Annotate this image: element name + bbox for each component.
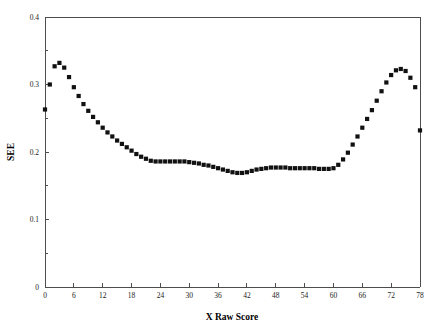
data-point: [303, 166, 307, 170]
data-point: [235, 171, 239, 175]
data-point: [346, 151, 350, 155]
data-point: [254, 167, 258, 171]
data-point: [226, 169, 230, 173]
x-tick-label: 0: [43, 291, 47, 300]
data-point: [322, 167, 326, 171]
data-point: [187, 160, 191, 164]
data-point: [394, 68, 398, 72]
data-point: [105, 130, 109, 134]
data-point: [250, 169, 254, 173]
data-point: [62, 66, 66, 70]
data-point: [48, 82, 52, 86]
data-point: [278, 165, 282, 169]
data-point: [355, 134, 359, 138]
data-point: [91, 115, 95, 119]
data-point: [43, 107, 47, 111]
x-axis-title: X Raw Score: [206, 312, 259, 322]
data-point: [192, 161, 196, 165]
data-point: [230, 170, 234, 174]
data-point: [149, 159, 153, 163]
data-point: [327, 167, 331, 171]
data-point: [288, 166, 292, 170]
data-point: [379, 89, 383, 93]
see-vs-raw-score-scatter-plot: 06121824303642485460667278 00.10.20.30.4…: [0, 0, 441, 328]
data-point: [264, 166, 268, 170]
data-point: [197, 161, 201, 165]
data-point: [86, 109, 90, 113]
data-point: [245, 170, 249, 174]
data-point: [370, 108, 374, 112]
data-point: [72, 85, 76, 89]
data-point: [259, 167, 263, 171]
x-tick-label: 66: [359, 291, 367, 300]
data-point: [144, 157, 148, 161]
data-point: [206, 163, 210, 167]
data-point: [399, 67, 403, 71]
data-point: [125, 145, 129, 149]
y-axis-ticks: [45, 17, 49, 287]
data-point: [221, 167, 225, 171]
data-point: [96, 120, 100, 124]
data-point: [120, 142, 124, 146]
data-point: [418, 128, 422, 132]
data-point: [182, 159, 186, 163]
x-tick-label: 18: [128, 291, 136, 300]
data-point: [269, 165, 273, 169]
data-point: [211, 165, 215, 169]
data-point: [153, 159, 157, 163]
data-point: [375, 99, 379, 103]
x-tick-label: 72: [387, 291, 395, 300]
data-point: [293, 166, 297, 170]
x-tick-label: 36: [214, 291, 222, 300]
x-tick-label: 12: [99, 291, 107, 300]
data-point: [81, 102, 85, 106]
data-point: [336, 163, 340, 167]
data-point: [360, 126, 364, 130]
x-tick-label: 30: [185, 291, 193, 300]
y-tick-label: 0.3: [30, 80, 40, 89]
y-tick-label: 0.4: [30, 13, 40, 22]
data-point: [331, 166, 335, 170]
x-tick-label: 78: [416, 291, 424, 300]
data-point: [408, 76, 412, 80]
data-point: [240, 171, 244, 175]
data-point: [129, 149, 133, 153]
data-point: [403, 69, 407, 73]
data-point: [351, 142, 355, 146]
chart-container: 06121824303642485460667278 00.10.20.30.4…: [0, 0, 441, 328]
data-point: [163, 159, 167, 163]
plot-frame: [45, 17, 420, 287]
data-point: [283, 165, 287, 169]
x-tick-label: 42: [243, 291, 251, 300]
x-tick-label: 54: [301, 291, 309, 300]
y-axis-title: SEE: [6, 143, 16, 161]
data-point: [317, 167, 321, 171]
data-point: [168, 159, 172, 163]
data-point: [365, 117, 369, 121]
data-point: [312, 166, 316, 170]
x-tick-label: 24: [157, 291, 165, 300]
data-point: [110, 134, 114, 138]
data-point: [53, 64, 57, 68]
data-point: [57, 61, 61, 65]
x-axis-tick-labels: 06121824303642485460667278: [43, 291, 424, 300]
data-point: [298, 166, 302, 170]
data-point: [101, 126, 105, 130]
data-point: [115, 138, 119, 142]
y-tick-label: 0: [35, 283, 39, 292]
data-point: [274, 165, 278, 169]
data-point: [173, 159, 177, 163]
data-point: [77, 94, 81, 98]
y-axis-tick-labels: 00.10.20.30.4: [30, 13, 40, 292]
y-tick-label: 0.1: [30, 215, 40, 224]
y-tick-label: 0.2: [30, 148, 40, 157]
data-point: [202, 163, 206, 167]
x-tick-label: 48: [272, 291, 280, 300]
data-series-see: [43, 61, 422, 175]
data-point: [134, 152, 138, 156]
data-point: [384, 80, 388, 84]
data-point: [139, 155, 143, 159]
data-point: [67, 75, 71, 79]
data-point: [158, 159, 162, 163]
data-point: [341, 157, 345, 161]
